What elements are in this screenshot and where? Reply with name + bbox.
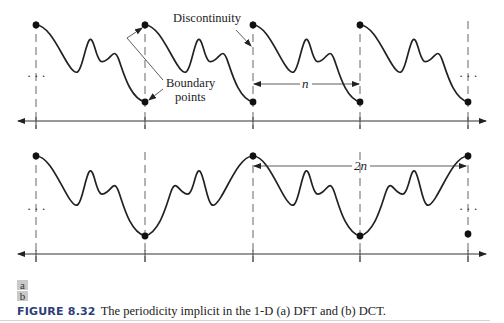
discontinuity-arrow bbox=[236, 30, 251, 46]
bottom-rule bbox=[0, 320, 490, 321]
panel-a-ticks bbox=[36, 117, 468, 129]
caption-text: The periodicity implicit in the 1-D (a) … bbox=[101, 304, 386, 318]
panel-b-dashed-guides bbox=[36, 152, 468, 262]
period-n-label: n bbox=[302, 76, 309, 91]
ellipsis-right-a: · · · bbox=[459, 69, 478, 83]
period-2n-label: 2n bbox=[354, 158, 367, 173]
boundary-points-label-line2: points bbox=[175, 90, 206, 104]
boundary-points-label-line1: Boundary bbox=[166, 76, 216, 90]
figure-caption: FIGURE 8.32The periodicity implicit in t… bbox=[17, 304, 386, 319]
ellipsis-right-b: · · · bbox=[459, 202, 478, 216]
discontinuity-label: Discontinuity bbox=[173, 11, 242, 25]
panel-label-a: a bbox=[17, 280, 28, 290]
ellipsis-left-b: · · · bbox=[27, 202, 46, 216]
panel-a-dashed-guides bbox=[36, 21, 468, 129]
panel-a-signal-curve bbox=[36, 25, 468, 102]
boundary-arrow-top bbox=[127, 28, 142, 38]
panel-b-signal-curve bbox=[36, 156, 468, 236]
ellipsis-left-a: · · · bbox=[27, 69, 46, 83]
panel-a-dft: Discontinuity Boundary points n · · · · … bbox=[18, 11, 486, 129]
figure-number: FIGURE 8.32 bbox=[17, 305, 96, 318]
panel-label-b: b bbox=[17, 291, 28, 301]
panel-b-ticks bbox=[36, 250, 468, 262]
boundary-arrow-bottom bbox=[149, 89, 163, 100]
panel-b-dct: 2n · · · · · · bbox=[18, 152, 486, 262]
figure-drawing: Discontinuity Boundary points n · · · · … bbox=[0, 0, 504, 275]
